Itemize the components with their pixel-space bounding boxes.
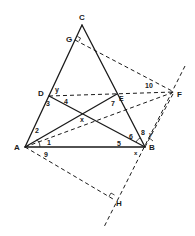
angle-label-10: 10 <box>145 82 153 89</box>
angle-label-3: 3 <box>46 100 50 107</box>
point-label-H: H <box>116 199 122 208</box>
angle-arc-B <box>136 138 140 142</box>
angle-label-6: 6 <box>129 133 133 140</box>
angle-label-8: 8 <box>141 129 145 136</box>
right-angle-marker-H <box>109 193 115 197</box>
segment-BC <box>82 25 145 147</box>
angle-label-2: 2 <box>35 127 39 134</box>
point-label-A: A <box>14 143 20 152</box>
right-angle-marker-G <box>78 37 81 42</box>
point-label-C: C <box>79 13 85 22</box>
point-label-D: D <box>38 89 44 98</box>
segment-GF <box>75 40 174 92</box>
point-label-G: G <box>66 35 72 44</box>
angle-label-y-at-D: y <box>55 86 59 94</box>
point-label-E: E <box>119 95 124 102</box>
angle-label-1: 1 <box>47 139 51 146</box>
angle-label-7: 7 <box>111 100 115 107</box>
intersection-label-x: x <box>80 116 84 123</box>
segment-AH <box>25 147 113 199</box>
segment-DF <box>49 92 174 96</box>
geometry-diagram: C G D E F A B H x 1 2 3 4 5 6 7 8 9 10 y… <box>0 0 195 236</box>
angle-label-x-at-B: x <box>134 150 138 156</box>
angle-label-9: 9 <box>44 151 48 158</box>
segment-AE <box>25 94 117 147</box>
point-label-B: B <box>149 143 155 152</box>
angle-label-4: 4 <box>64 98 68 105</box>
angle-label-5: 5 <box>117 140 121 147</box>
point-label-F: F <box>177 90 182 99</box>
